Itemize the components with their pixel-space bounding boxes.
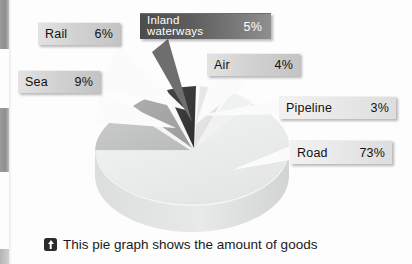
- callout-sea[interactable]: Sea 9%: [18, 70, 100, 93]
- callout-rail[interactable]: Rail 6%: [38, 22, 120, 45]
- figure-caption: This pie graph shows the amount of goods: [44, 237, 317, 252]
- callout-air-label: Air: [214, 58, 230, 72]
- callout-pipeline[interactable]: Pipeline 3%: [279, 96, 396, 119]
- arrow-up-icon: [44, 238, 57, 251]
- callout-road-label: Road: [297, 146, 328, 160]
- figure-caption-text: This pie graph shows the amount of goods: [63, 237, 317, 252]
- callout-air[interactable]: Air 4%: [207, 53, 300, 76]
- callout-sea-percent: 9%: [65, 75, 93, 89]
- figure-container: Rail 6% Inland waterways 5% Air 4% Sea 9…: [0, 0, 412, 264]
- callout-inland-waterways-label: Inland waterways: [147, 15, 219, 37]
- callout-inland-waterways[interactable]: Inland waterways 5%: [140, 13, 271, 39]
- callout-road[interactable]: Road 73%: [290, 140, 392, 164]
- callout-inland-waterways-percent: 5%: [234, 21, 262, 32]
- callout-rail-percent: 6%: [85, 27, 113, 41]
- callout-air-percent: 4%: [265, 58, 293, 72]
- callout-rail-label: Rail: [45, 27, 67, 41]
- callout-road-percent: 73%: [349, 146, 385, 160]
- callout-pipeline-percent: 3%: [361, 101, 389, 115]
- callout-pipeline-label: Pipeline: [286, 101, 332, 115]
- callout-sea-label: Sea: [25, 75, 48, 89]
